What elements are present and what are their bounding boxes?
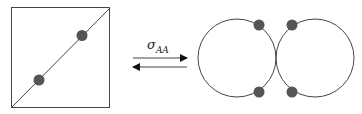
transition-arrows [133, 58, 187, 67]
dot [287, 87, 298, 98]
dot [77, 30, 88, 41]
two-circles-panel [198, 19, 354, 98]
dot [287, 20, 298, 31]
dot [34, 75, 45, 86]
dot [254, 87, 265, 98]
left-circle [198, 19, 276, 97]
sigma-subscript: AA [156, 45, 169, 55]
transition-label: σAA [147, 37, 169, 55]
sigma-symbol: σ [147, 37, 156, 52]
diagonal-line [12, 8, 110, 107]
right-circle [276, 19, 354, 97]
diagram-canvas [0, 0, 362, 114]
square-panel [12, 8, 111, 108]
dot [254, 20, 265, 31]
